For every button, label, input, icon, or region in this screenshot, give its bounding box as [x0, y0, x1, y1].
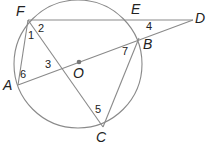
- angle-label-2: 2: [38, 22, 44, 34]
- angle-label-7: 7: [122, 45, 128, 57]
- segment-ad: [18, 20, 193, 85]
- segments: [18, 20, 193, 127]
- point-label-d: D: [195, 10, 205, 26]
- angle-labels: 1234567: [20, 20, 152, 115]
- center-point: [77, 60, 82, 65]
- point-label-e: E: [131, 1, 141, 17]
- point-label-o: O: [73, 65, 84, 81]
- segment-fc: [28, 20, 103, 127]
- angle-label-6: 6: [20, 68, 26, 80]
- angle-label-4: 4: [146, 20, 152, 32]
- point-label-f: F: [16, 3, 26, 19]
- center-dot: [77, 60, 82, 65]
- point-label-a: A: [2, 77, 12, 93]
- angle-label-5: 5: [95, 103, 101, 115]
- point-label-c: C: [96, 129, 107, 144]
- angle-label-1: 1: [28, 29, 34, 41]
- angle-label-3: 3: [45, 58, 51, 70]
- circle-geometry-diagram: FEDBACO 1234567: [0, 0, 208, 144]
- point-label-b: B: [143, 36, 152, 52]
